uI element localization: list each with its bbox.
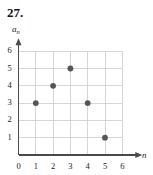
- y-tick-label: 5: [5, 64, 15, 73]
- x-tick-label: 1: [31, 162, 41, 171]
- x-tick-label: 3: [65, 162, 75, 171]
- axes: [16, 38, 143, 158]
- y-tick-label: 6: [5, 46, 15, 55]
- x-axis-arrow: [135, 152, 142, 158]
- x-tick-label: 6: [117, 162, 127, 171]
- data-point: [68, 66, 74, 72]
- x-tick-label: 4: [83, 162, 93, 171]
- data-point: [85, 100, 91, 106]
- y-tick-label: 4: [5, 81, 15, 90]
- x-tick-label: 0: [14, 162, 24, 171]
- data-point: [102, 135, 108, 141]
- scatter-plot: [0, 0, 153, 175]
- x-tick-label: 2: [48, 162, 58, 171]
- figure-container: 27. an n 0123456123456: [0, 0, 153, 175]
- y-tick-label: 1: [5, 133, 15, 142]
- x-tick-label: 5: [100, 162, 110, 171]
- y-axis-arrow: [16, 38, 22, 45]
- data-point: [50, 83, 56, 89]
- y-tick-label: 3: [5, 98, 15, 107]
- data-point: [33, 100, 39, 106]
- y-tick-label: 2: [5, 115, 15, 124]
